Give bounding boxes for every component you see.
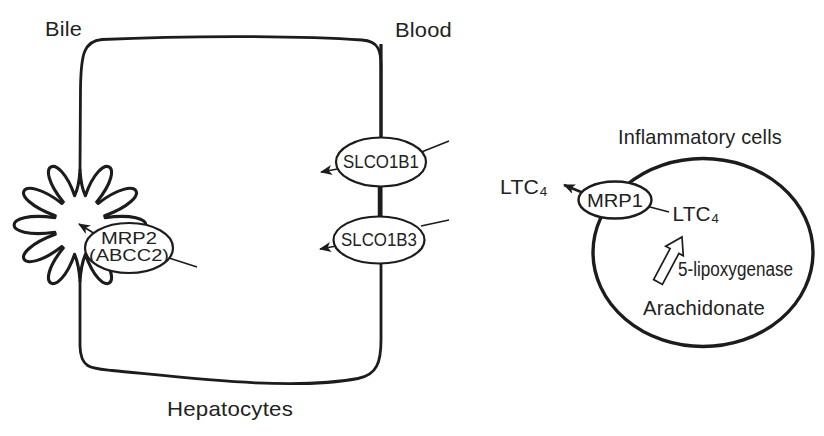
slco1b3-outer-line — [421, 220, 449, 226]
inflammatory-cell: MRP1 Inflammatory cells LTC₄ LTC₄ 5-lipo… — [500, 125, 813, 347]
bile-label: Bile — [45, 17, 82, 40]
ltc4-outside-label: LTC₄ — [500, 175, 548, 198]
blood-label: Blood — [395, 18, 452, 41]
mrp2-pointer-line — [169, 258, 197, 267]
pathway-figure: SLCO1B1 SLCO1B3 MRP2 (ABCC2) Bile Blood … — [0, 0, 824, 436]
slco1b3-label: SLCO1B3 — [341, 230, 417, 250]
hepatocytes-label: Hepatocytes — [167, 397, 293, 420]
lipoxygenase-label: 5-lipoxygenase — [678, 258, 793, 280]
hepatocyte-membrane-outline — [80, 37, 381, 384]
slco1b1-label: SLCO1B1 — [343, 152, 419, 172]
slco1b1-outer-line — [419, 141, 449, 153]
mrp1-label: MRP1 — [587, 191, 643, 211]
ltc4-inside-label: LTC₄ — [673, 202, 720, 225]
arachidonate-label: Arachidonate — [643, 296, 765, 319]
mrp2-label-line2: (ABCC2) — [89, 246, 169, 265]
hepatocyte-cell: SLCO1B1 SLCO1B3 MRP2 (ABCC2) Bile Blood … — [14, 17, 452, 420]
pathway-diagram-svg: SLCO1B1 SLCO1B3 MRP2 (ABCC2) Bile Blood … — [0, 0, 824, 436]
mrp1-ltc4-connector — [650, 207, 669, 212]
inflammatory-cells-title: Inflammatory cells — [618, 125, 782, 148]
